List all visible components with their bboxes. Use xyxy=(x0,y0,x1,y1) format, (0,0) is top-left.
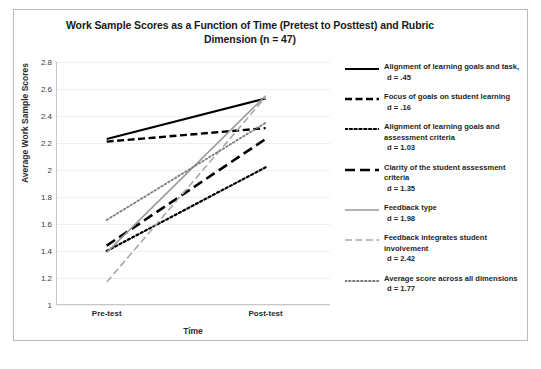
legend-effect-size: d = 2.42 xyxy=(387,254,525,265)
legend-effect-size: d = .16 xyxy=(387,103,510,114)
x-tick-label: Pre-test xyxy=(92,309,122,318)
legend-label: Alignment of learning goals and task,d =… xyxy=(384,62,519,83)
legend-effect-size: d = 1.03 xyxy=(387,143,500,154)
legend-label: Focus of goals on student learningd = .1… xyxy=(384,92,510,113)
legend-effect-size: d = 1.77 xyxy=(387,284,518,295)
y-tick-label: 2.2 xyxy=(41,139,52,148)
figure-container: Work Sample Scores as a Function of Time… xyxy=(0,0,541,369)
y-tick-label: 2 xyxy=(48,166,52,175)
legend-item[interactable]: Average score across all dimensionsd = 1… xyxy=(345,274,525,295)
y-tick-label: 1.8 xyxy=(41,193,52,202)
solid-gray-line-swatch xyxy=(345,204,379,216)
legend-item[interactable]: Clarity of the student assessment criter… xyxy=(345,163,525,195)
legend-label: Clarity of the student assessment criter… xyxy=(384,163,525,195)
y-axis-title: Average Work Sample Scores xyxy=(20,63,30,183)
dashed-gray-line-swatch xyxy=(345,234,379,246)
legend-label-text: Average score across all dimensions xyxy=(384,274,518,283)
y-tick-label: 2.8 xyxy=(41,58,52,67)
legend-item[interactable]: Alignment of learning goals and task,d =… xyxy=(345,62,525,83)
legend-item[interactable]: Focus of goals on student learningd = .1… xyxy=(345,92,525,113)
legend-label-text: Alignment of learning goals and assessme… xyxy=(384,122,500,142)
legend-label: Feedback integrates student involvementd… xyxy=(384,233,525,265)
solid-black-line-swatch xyxy=(345,63,379,75)
legend-effect-size: d = .45 xyxy=(387,73,519,84)
dotted-black-line-swatch xyxy=(345,123,379,135)
y-tick-label: 2.4 xyxy=(41,112,52,121)
legend-label-text: Feedback integrates student involvement xyxy=(384,233,487,253)
series-line xyxy=(107,97,266,282)
legend-item[interactable]: Alignment of learning goals and assessme… xyxy=(345,122,525,154)
legend-item[interactable]: Feedback integrates student involvementd… xyxy=(345,233,525,265)
y-tick-label: 2.6 xyxy=(41,85,52,94)
series-lines xyxy=(56,62,330,305)
legend-label: Feedback typed = 1.98 xyxy=(384,203,437,224)
legend-label: Alignment of learning goals and assessme… xyxy=(384,122,500,154)
legend-label-text: Focus of goals on student learning xyxy=(384,92,510,101)
legend-item[interactable]: Feedback typed = 1.98 xyxy=(345,203,525,224)
chart-legend: Alignment of learning goals and task,d =… xyxy=(345,62,525,304)
y-tick-label: 1.4 xyxy=(41,247,52,256)
legend-label-text: Feedback type xyxy=(384,203,437,212)
fine-dotted-gray-line-swatch xyxy=(345,275,379,287)
legend-effect-size: d = 1.35 xyxy=(387,184,525,195)
gridline xyxy=(57,305,330,306)
series-line xyxy=(107,167,266,251)
series-line xyxy=(107,123,266,220)
x-axis-title: Time xyxy=(56,326,330,336)
x-tick-label: Post-test xyxy=(248,309,282,318)
legend-label: Average score across all dimensionsd = 1… xyxy=(384,274,518,295)
series-line xyxy=(107,128,266,142)
y-tick-label: 1.2 xyxy=(41,274,52,283)
dashed-black-line-swatch xyxy=(345,93,379,105)
y-tick-label: 1.6 xyxy=(41,220,52,229)
legend-label-text: Clarity of the student assessment criter… xyxy=(384,163,506,183)
legend-label-text: Alignment of learning goals and task, xyxy=(384,62,519,71)
legend-effect-size: d = 1.98 xyxy=(387,214,437,225)
y-tick-label: 1 xyxy=(48,301,52,310)
long-dash-black-line-swatch xyxy=(345,164,379,176)
chart-title: Work Sample Scores as a Function of Time… xyxy=(40,18,460,46)
